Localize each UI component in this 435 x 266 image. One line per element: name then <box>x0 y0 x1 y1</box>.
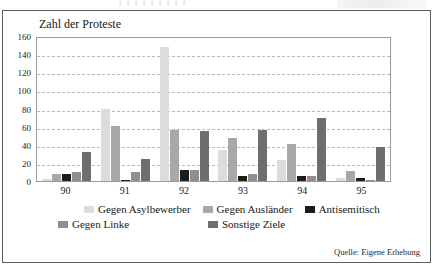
y-axis-tick: 20 <box>22 159 31 169</box>
bar <box>287 144 296 181</box>
x-axis-tick: 90 <box>36 185 95 199</box>
bar <box>131 172 140 181</box>
bar-group-90 <box>37 38 96 181</box>
bar <box>62 174 71 181</box>
bar-group-93 <box>213 38 272 181</box>
bar <box>160 47 169 181</box>
bar <box>121 180 130 181</box>
x-axis-tick-labels: 909192939495 <box>36 185 391 199</box>
bar <box>238 176 247 181</box>
bar <box>228 138 237 182</box>
bar <box>346 171 355 181</box>
y-axis-tick: 80 <box>22 105 31 115</box>
y-axis-tick: 100 <box>18 86 32 96</box>
bar <box>200 131 209 181</box>
bar <box>42 179 51 181</box>
bar <box>141 159 150 181</box>
legend-label: Gegen Linke <box>72 218 129 230</box>
x-axis-tick: 94 <box>273 185 332 199</box>
legend-label: Gegen Ausländer <box>217 203 293 215</box>
y-axis-tick: 160 <box>18 32 32 42</box>
bar <box>258 130 267 181</box>
bar <box>111 126 120 181</box>
legend-item: Antisemitisch <box>305 203 380 215</box>
bar <box>190 170 199 181</box>
legend-row-2: Gegen LinkeSonstige Ziele <box>36 218 406 230</box>
legend-swatch-icon <box>84 206 94 213</box>
bar-group-92 <box>155 38 214 181</box>
legend-item: Gegen Linke <box>58 218 208 230</box>
y-axis-tick: 120 <box>18 68 32 78</box>
legend-label: Gegen Asylbewerber <box>98 203 191 215</box>
x-axis-tick: 92 <box>154 185 213 199</box>
chart-figure: Zahl der Proteste 160140120100806040200 … <box>2 10 431 263</box>
bar-group-95 <box>331 38 390 181</box>
bar-group-94 <box>272 38 331 181</box>
x-axis-tick: 93 <box>214 185 273 199</box>
legend-row-1: Gegen AsylbewerberGegen AusländerAntisem… <box>36 203 406 215</box>
bar <box>307 176 316 181</box>
chart-axis-title: Zahl der Proteste <box>39 17 121 32</box>
y-axis-tick: 60 <box>22 123 31 133</box>
bar <box>317 118 326 181</box>
x-axis-tick: 95 <box>332 185 391 199</box>
bar <box>277 160 286 181</box>
bar <box>72 172 81 181</box>
bar <box>218 150 227 181</box>
legend-swatch-icon <box>305 206 315 213</box>
bar-group-91 <box>96 38 155 181</box>
bar <box>336 178 345 181</box>
legend-item: Sonstige Ziele <box>208 218 285 230</box>
bar <box>376 147 385 181</box>
y-axis-tick: 140 <box>18 50 32 60</box>
bar-groups <box>37 38 390 181</box>
y-axis-tick-labels: 160140120100806040200 <box>3 31 34 183</box>
bar <box>101 109 110 182</box>
bar <box>356 178 365 181</box>
legend-item: Gegen Asylbewerber <box>84 203 191 215</box>
bar <box>297 176 306 181</box>
legend-swatch-icon <box>58 221 68 228</box>
legend-label: Antisemitisch <box>319 203 380 215</box>
bar <box>248 174 257 181</box>
bar <box>366 180 375 181</box>
legend-label: Sonstige Ziele <box>222 218 285 230</box>
bar <box>82 152 91 181</box>
x-axis-tick: 91 <box>95 185 154 199</box>
plot-area <box>36 37 391 182</box>
scan-artifact-text: 1 1 1 1 1 1 1 1 1 <box>118 0 238 8</box>
y-axis-tick: 40 <box>22 141 31 151</box>
bar <box>52 174 61 181</box>
legend-swatch-icon <box>203 206 213 213</box>
bar <box>180 170 189 181</box>
y-axis-tick: 0 <box>27 177 32 187</box>
legend-item: Gegen Ausländer <box>203 203 293 215</box>
legend-swatch-icon <box>208 221 218 228</box>
bar <box>170 130 179 181</box>
source-note: Quelle: Eigene Erhebung <box>334 247 420 257</box>
scan-artifact-smudge <box>337 0 427 8</box>
chart-legend: Gegen AsylbewerberGegen AusländerAntisem… <box>36 203 406 233</box>
